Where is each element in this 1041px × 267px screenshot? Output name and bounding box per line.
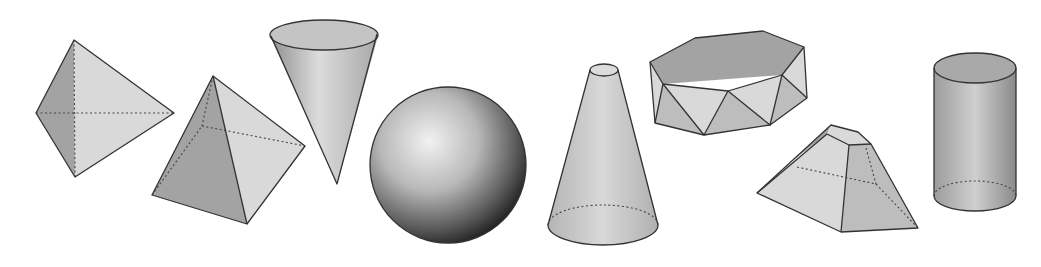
square-pyramid-shape	[152, 76, 305, 224]
cylinder-shape	[934, 53, 1016, 211]
frustum-cone-shape	[548, 64, 658, 245]
sphere-shape	[370, 87, 526, 243]
hexagonal-antiprism-shape	[650, 31, 807, 135]
truncated-pyramid-shape	[757, 125, 918, 232]
tetrahedron-shape	[36, 40, 174, 177]
geometric-solids-figure	[0, 0, 1041, 267]
